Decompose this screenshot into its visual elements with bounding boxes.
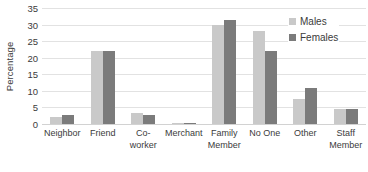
bar-males[interactable] — [334, 109, 346, 124]
y-axis-title-label: Percentage — [5, 41, 16, 91]
bar-males[interactable] — [50, 117, 62, 124]
bar-females[interactable] — [305, 88, 317, 124]
bar-females[interactable] — [346, 109, 358, 124]
bar-females[interactable] — [143, 115, 155, 124]
y-axis-tick-labels: 05101520253035 — [20, 0, 40, 132]
bar-chart: Percentage 05101520253035 NeighborFriend… — [0, 0, 368, 172]
bar-males[interactable] — [131, 113, 143, 124]
bar-males[interactable] — [293, 99, 305, 124]
x-axis-tick: No One — [245, 128, 286, 170]
y-axis-tick: 10 — [27, 85, 38, 96]
y-axis-tick: 0 — [33, 119, 38, 130]
axis-baseline — [42, 124, 366, 125]
chart-legend: MalesFemales — [288, 16, 339, 43]
bar-group — [204, 8, 245, 124]
y-axis-title: Percentage — [0, 0, 20, 132]
bar-females[interactable] — [62, 115, 74, 124]
bar-females[interactable] — [265, 51, 277, 124]
bar-group — [164, 8, 205, 124]
bar-females[interactable] — [224, 20, 236, 124]
bar-group — [245, 8, 286, 124]
bar-females[interactable] — [103, 51, 115, 124]
legend-item[interactable]: Females — [288, 32, 339, 43]
x-axis-tick: Merchant — [164, 128, 205, 170]
bar-group — [123, 8, 164, 124]
y-axis-tick: 15 — [27, 69, 38, 80]
x-axis-tick: Family Member — [204, 128, 245, 170]
x-axis-tick-labels: NeighborFriendCo-workerMerchantFamily Me… — [42, 128, 366, 170]
x-axis-tick: Neighbor — [42, 128, 83, 170]
bar-males[interactable] — [172, 123, 184, 124]
legend-label: Males — [300, 16, 327, 27]
bar-males[interactable] — [212, 25, 224, 124]
bar-males[interactable] — [253, 31, 265, 124]
y-axis-tick: 35 — [27, 3, 38, 14]
legend-item[interactable]: Males — [288, 16, 339, 27]
y-axis-tick: 30 — [27, 19, 38, 30]
bar-males[interactable] — [91, 51, 103, 124]
legend-label: Females — [300, 32, 338, 43]
y-axis-tick: 25 — [27, 36, 38, 47]
y-axis-tick: 5 — [33, 102, 38, 113]
bar-group — [83, 8, 124, 124]
x-axis-tick: Friend — [83, 128, 124, 170]
x-axis-tick: Other — [285, 128, 326, 170]
legend-swatch-icon — [289, 34, 296, 41]
x-axis-tick: Co-worker — [123, 128, 164, 170]
bar-females[interactable] — [184, 123, 196, 124]
legend-swatch-icon — [289, 18, 296, 25]
x-axis-tick: Staff Member — [326, 128, 367, 170]
bar-group — [42, 8, 83, 124]
y-axis-tick: 20 — [27, 52, 38, 63]
